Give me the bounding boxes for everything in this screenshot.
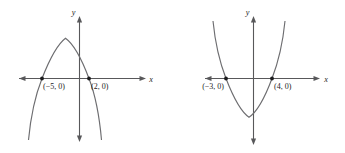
- left-graph-y-axis: y: [71, 8, 82, 142]
- left-y-axis-label: y: [71, 8, 76, 17]
- right-intercept-dot-2: [270, 77, 274, 81]
- left-y-axis-arrow-up: [77, 16, 82, 23]
- right-x-axis-label: x: [323, 75, 328, 84]
- right-intercept-dot-1: [224, 77, 228, 81]
- left-intercept-label-1: (−5, 0): [43, 82, 65, 91]
- right-intercept-label-2: (4, 0): [274, 82, 292, 91]
- right-y-axis-arrow-down: [251, 139, 256, 146]
- left-x-axis-arrow-left: [19, 76, 26, 81]
- right-graph: x y (−3, 0) (4, 0): [202, 8, 328, 145]
- right-x-axis-arrow-left: [205, 76, 212, 81]
- right-graph-y-axis: y: [245, 8, 256, 145]
- right-y-axis-label: y: [245, 8, 250, 17]
- left-x-axis-arrow-right: [140, 76, 147, 81]
- left-graph-x-axis: x: [19, 75, 153, 84]
- left-intercept-label-2: (2, 0): [91, 82, 109, 91]
- left-x-axis-label: x: [148, 75, 153, 84]
- right-parabola-curve: [213, 21, 285, 117]
- parabolas-figure: x y (−5, 0) (2, 0) x: [0, 0, 345, 153]
- right-intercept-label-1: (−3, 0): [202, 82, 224, 91]
- left-intercept-dot-2: [87, 77, 91, 81]
- right-x-axis-arrow-right: [314, 76, 321, 81]
- left-y-axis-arrow-down: [77, 136, 82, 143]
- left-intercept-dot-1: [40, 77, 44, 81]
- left-graph: x y (−5, 0) (2, 0): [19, 8, 153, 142]
- right-y-axis-arrow-up: [251, 16, 256, 23]
